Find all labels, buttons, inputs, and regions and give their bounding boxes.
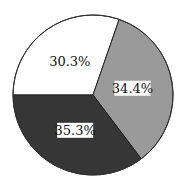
slice-label: 35.3% (55, 123, 96, 138)
slice-label: 34.4% (112, 81, 153, 96)
pie-chart: 30.3%34.4%35.3% (0, 0, 182, 187)
slice-label: 30.3% (49, 54, 90, 69)
